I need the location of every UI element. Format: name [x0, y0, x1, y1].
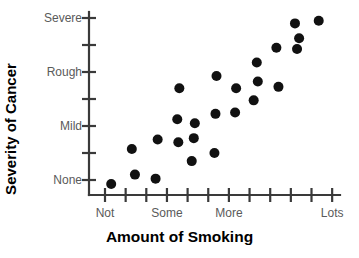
data-point [314, 16, 324, 26]
plot-area [0, 0, 359, 258]
data-point [231, 83, 241, 93]
data-point [271, 43, 281, 53]
data-point [273, 82, 283, 92]
data-point [127, 144, 137, 154]
scatter-plot-figure: Severity of Cancer Amount of Smoking Sev… [0, 0, 359, 258]
data-point [253, 76, 263, 86]
data-point [249, 95, 259, 105]
data-point [187, 156, 197, 166]
data-point [151, 174, 161, 184]
data-point [212, 71, 222, 81]
data-point [230, 108, 240, 118]
data-point [153, 135, 163, 145]
data-point [189, 133, 199, 143]
data-point [209, 148, 219, 158]
data-point [292, 44, 302, 54]
data-point [130, 170, 140, 180]
data-points [106, 16, 324, 189]
data-point [252, 58, 262, 68]
data-point [173, 137, 183, 147]
data-point [210, 109, 220, 119]
data-point [190, 118, 200, 128]
data-point [172, 114, 182, 124]
data-point [294, 33, 304, 43]
data-point [174, 83, 184, 93]
data-point [290, 18, 300, 28]
data-point [106, 179, 116, 189]
